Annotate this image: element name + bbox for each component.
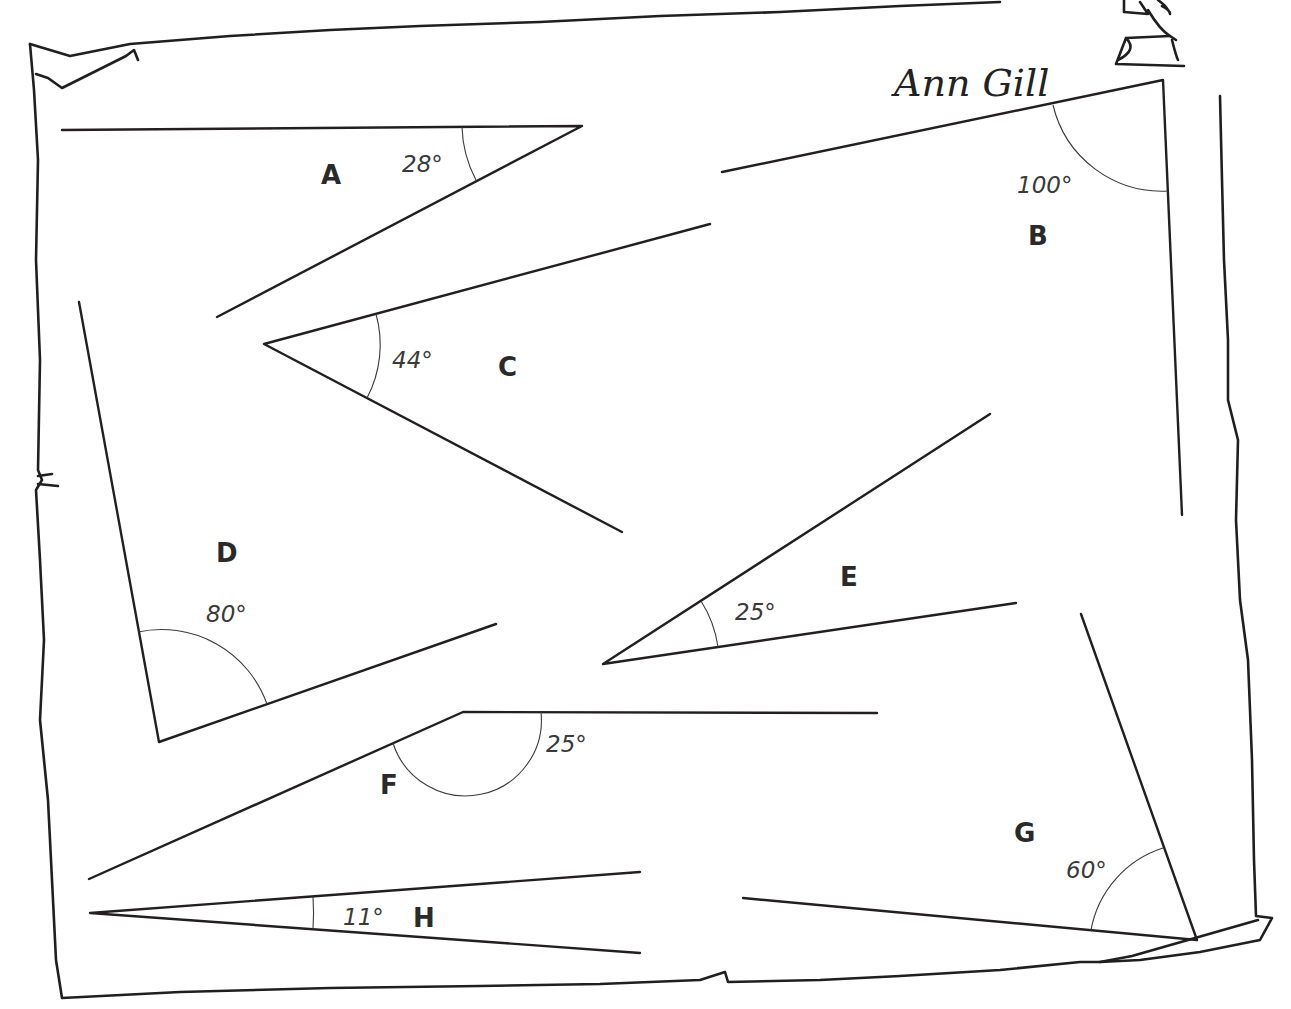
angle-h-measure: 11° bbox=[343, 904, 384, 930]
angle-h: H 11° bbox=[90, 872, 640, 953]
angle-f-letter: F bbox=[380, 770, 398, 800]
angle-a-measure: 28° bbox=[402, 151, 443, 177]
author-name: Ann Gill bbox=[891, 61, 1049, 105]
angle-a-letter: A bbox=[321, 160, 341, 190]
angle-d-arc bbox=[138, 630, 267, 704]
angle-d-letter: D bbox=[216, 538, 238, 568]
angle-a-arc bbox=[462, 127, 476, 180]
angle-e-measure: 25° bbox=[735, 599, 776, 625]
angle-d: D 80° bbox=[79, 302, 496, 742]
angle-b-measure: 100° bbox=[1017, 172, 1072, 198]
angle-d-measure: 80° bbox=[206, 601, 247, 627]
angle-c: C 44° bbox=[264, 224, 710, 532]
clip-art-figure-icon bbox=[1116, 0, 1184, 66]
angle-e: E 25° bbox=[603, 414, 1016, 664]
angle-g-letter: G bbox=[1014, 818, 1035, 848]
angle-worksheet: Ann Gill A 28° B 100° C 44° D 80° E 25° bbox=[0, 0, 1291, 1009]
angle-b: B 100° bbox=[722, 80, 1182, 515]
angle-g-measure: 60° bbox=[1066, 857, 1107, 883]
angle-a: A 28° bbox=[62, 126, 582, 317]
angle-e-arc bbox=[701, 601, 718, 647]
angle-f-measure: 25° bbox=[546, 731, 587, 757]
angle-h-arc bbox=[313, 897, 314, 929]
torn-paper-border bbox=[30, 2, 1272, 998]
angle-c-arc bbox=[367, 314, 380, 398]
angle-c-letter: C bbox=[498, 352, 517, 382]
angle-g: G 60° bbox=[743, 614, 1197, 940]
angle-f: F 25° bbox=[89, 712, 877, 879]
angle-e-letter: E bbox=[840, 562, 858, 592]
angle-h-letter: H bbox=[413, 903, 435, 933]
angle-b-letter: B bbox=[1028, 221, 1048, 251]
angle-c-measure: 44° bbox=[392, 347, 433, 373]
angle-f-arc bbox=[393, 712, 541, 796]
